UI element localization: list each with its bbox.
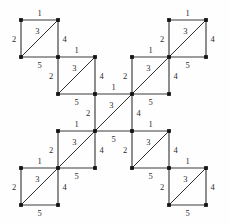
square-bottom-right-outer-label-bottom: 5 — [185, 208, 189, 217]
vertex-node — [93, 129, 97, 133]
vertex-node — [19, 55, 23, 59]
square-top-right-inner-label-top: 1 — [148, 45, 152, 54]
square-bottom-left-outer-label-right: 4 — [62, 182, 66, 191]
vertex-node — [167, 55, 171, 59]
square-bottom-left-inner-label-top: 1 — [74, 119, 78, 128]
square-top-left-outer-diagonal — [21, 20, 58, 57]
square-bottom-left-outer-label-top: 1 — [37, 156, 41, 165]
vertex-node — [167, 92, 171, 96]
square-center-label-bottom: 5 — [111, 134, 115, 143]
square-bottom-left-outer-label-bottom: 5 — [37, 208, 41, 217]
vertex-node — [130, 166, 134, 170]
square-bottom-right-inner-label-right: 4 — [173, 145, 177, 154]
vertex-node — [56, 18, 60, 22]
square-center-label-right: 4 — [136, 108, 140, 117]
figure-canvas: 1234512345123451234512345123451234512345… — [0, 0, 229, 224]
square-bottom-right-outer-label-left: 2 — [160, 182, 164, 191]
square-top-left-outer-label-right: 4 — [62, 34, 66, 43]
square-bottom-left-outer-label-left: 2 — [12, 182, 16, 191]
vertex-node — [167, 166, 171, 170]
square-center-diagonal — [95, 94, 132, 131]
vertex-node — [19, 203, 23, 207]
square-top-left-inner-label-diagonal: 3 — [72, 64, 76, 73]
vertex-node — [167, 203, 171, 207]
vertex-node — [56, 129, 60, 133]
square-bottom-left-inner-label-bottom: 5 — [74, 171, 78, 180]
square-bottom-right-outer-label-diagonal: 3 — [183, 175, 187, 184]
vertex-node — [167, 18, 171, 22]
square-top-right-inner-label-right: 4 — [173, 71, 177, 80]
vertex-node — [130, 55, 134, 59]
vertex-node — [204, 18, 208, 22]
square-bottom-right-inner-diagonal — [132, 131, 169, 168]
square-diagonals-group — [21, 20, 206, 205]
square-top-right-outer-label-bottom: 5 — [185, 60, 189, 69]
square-bottom-right-inner-label-diagonal: 3 — [146, 138, 150, 147]
vertex-node — [204, 55, 208, 59]
square-top-right-outer-label-diagonal: 3 — [183, 27, 187, 36]
vertex-node — [56, 166, 60, 170]
square-bottom-right-inner-label-top: 1 — [148, 119, 152, 128]
vertex-node — [56, 203, 60, 207]
square-bottom-right-inner-label-bottom: 5 — [148, 171, 152, 180]
vertex-node — [167, 129, 171, 133]
square-top-left-outer-label-top: 1 — [37, 8, 41, 17]
square-bottom-left-outer-label-diagonal: 3 — [35, 175, 39, 184]
vertex-node — [93, 55, 97, 59]
square-top-left-outer-label-diagonal: 3 — [35, 27, 39, 36]
square-bottom-left-inner-label-right: 4 — [99, 145, 103, 154]
square-bottom-right-outer-label-top: 1 — [185, 156, 189, 165]
vertex-node — [204, 203, 208, 207]
square-top-left-outer-label-bottom: 5 — [37, 60, 41, 69]
vertex-node — [93, 166, 97, 170]
square-top-right-outer-label-left: 2 — [160, 34, 164, 43]
square-bottom-right-outer-diagonal — [169, 168, 206, 205]
square-top-left-inner-label-top: 1 — [74, 45, 78, 54]
vertex-node — [56, 55, 60, 59]
square-center-label-diagonal: 3 — [109, 101, 113, 110]
square-top-right-outer-label-top: 1 — [185, 8, 189, 17]
square-top-left-inner-diagonal — [58, 57, 95, 94]
vertex-node — [56, 92, 60, 96]
square-top-left-inner-label-left: 2 — [49, 71, 53, 80]
square-center-label-left: 2 — [86, 108, 90, 117]
square-top-left-outer-label-left: 2 — [12, 34, 16, 43]
square-top-right-inner-label-diagonal: 3 — [146, 64, 150, 73]
square-top-right-outer-diagonal — [169, 20, 206, 57]
square-bottom-left-outer-diagonal — [21, 168, 58, 205]
square-top-right-outer-label-right: 4 — [210, 34, 214, 43]
square-bottom-right-inner-label-left: 2 — [123, 145, 127, 154]
square-bottom-left-inner-label-left: 2 — [49, 145, 53, 154]
square-top-right-inner-label-bottom: 5 — [148, 97, 152, 106]
square-bottom-left-inner-diagonal — [58, 131, 95, 168]
square-top-left-inner-label-right: 4 — [99, 71, 103, 80]
square-top-right-inner-label-left: 2 — [123, 71, 127, 80]
square-top-right-inner-diagonal — [132, 57, 169, 94]
vertex-node — [19, 166, 23, 170]
square-bottom-left-inner-label-diagonal: 3 — [72, 138, 76, 147]
square-center-label-top: 1 — [111, 82, 115, 91]
vertex-node — [19, 18, 23, 22]
square-top-left-inner-label-bottom: 5 — [74, 97, 78, 106]
vertex-node — [130, 129, 134, 133]
square-bottom-right-outer-label-right: 4 — [210, 182, 214, 191]
vertex-node — [204, 166, 208, 170]
vertex-node — [93, 92, 97, 96]
vertex-node — [130, 92, 134, 96]
